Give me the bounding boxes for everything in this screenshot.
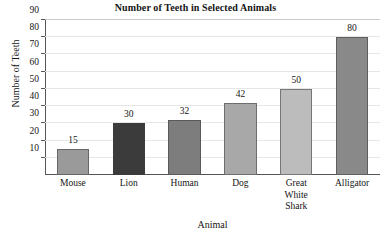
x-tick-label-mouse: Mouse <box>45 178 101 213</box>
bar-value-label: 15 <box>68 135 78 145</box>
x-tick-label-lion: Lion <box>101 178 157 213</box>
bar-slot: 30 <box>101 20 157 175</box>
x-tick-label-line: Human <box>157 178 213 190</box>
y-tick-label: 50 <box>30 74 40 84</box>
bar-great-white-shark[interactable]: 50 <box>280 89 312 175</box>
y-tick-label: 90 <box>30 5 40 15</box>
bar-value-label: 42 <box>236 89 246 99</box>
bar-lion[interactable]: 30 <box>113 123 145 175</box>
bar-series: 153032425080 <box>45 20 380 175</box>
x-tick-label-line: Great <box>268 178 324 190</box>
bar-human[interactable]: 32 <box>168 120 200 175</box>
bar-value-label: 50 <box>291 75 301 85</box>
y-tick-label: 10 <box>30 143 40 153</box>
x-tick-label-human: Human <box>157 178 213 213</box>
bar-alligator[interactable]: 80 <box>336 37 368 175</box>
x-tick-label-line: Shark <box>268 201 324 213</box>
bar-slot: 42 <box>212 20 268 175</box>
plot-area: 102030405060708090 153032425080 <box>45 20 380 175</box>
x-tick-label-line: Lion <box>101 178 157 190</box>
y-tick-label: 30 <box>30 108 40 118</box>
x-axis-categories: MouseLionHumanDogGreatWhiteSharkAlligato… <box>45 178 380 213</box>
bar-value-label: 80 <box>347 23 357 33</box>
y-tick-label: 40 <box>30 91 40 101</box>
y-tick-label: 80 <box>30 22 40 32</box>
bar-slot: 32 <box>157 20 213 175</box>
x-tick-label-line: White <box>268 190 324 202</box>
bar-dog[interactable]: 42 <box>224 103 256 175</box>
x-tick-label-great-white-shark: GreatWhiteShark <box>268 178 324 213</box>
x-tick-label-line: Dog <box>212 178 268 190</box>
bar-mouse[interactable]: 15 <box>57 149 89 175</box>
bar-slot: 80 <box>324 20 380 175</box>
bar-slot: 15 <box>45 20 101 175</box>
bar-value-label: 30 <box>124 109 134 119</box>
x-tick-label-line: Mouse <box>45 178 101 190</box>
x-axis-title: Animal <box>45 219 380 230</box>
y-tick-label: 20 <box>30 126 40 136</box>
y-axis-title: Number of Teeth <box>10 31 21 117</box>
bar-chart: Number of Teeth in Selected Animals Numb… <box>0 0 391 240</box>
chart-title: Number of Teeth in Selected Animals <box>0 2 391 13</box>
y-tick-label: 60 <box>30 57 40 67</box>
y-tick-label: 70 <box>30 39 40 49</box>
bar-slot: 50 <box>268 20 324 175</box>
x-tick-label-dog: Dog <box>212 178 268 213</box>
x-tick-label-line: Alligator <box>324 178 380 190</box>
x-tick-label-alligator: Alligator <box>324 178 380 213</box>
bar-value-label: 32 <box>180 106 190 116</box>
